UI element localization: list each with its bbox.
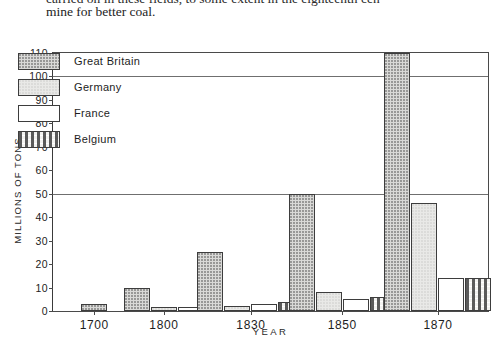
- legend-swatch-great-britain: [18, 53, 60, 70]
- bar-great-britain-1850: [289, 194, 315, 311]
- legend-swatch-germany: [18, 79, 60, 96]
- y-axis-tick-mark: [49, 288, 53, 289]
- bar-germany-1850: [316, 292, 342, 311]
- bar-great-britain-1830: [197, 252, 223, 311]
- y-axis-tick-mark: [49, 311, 53, 312]
- y-axis-tick-mark: [49, 241, 53, 242]
- x-axis-tick-mark: [342, 311, 343, 315]
- x-axis-tick-mark: [438, 311, 439, 315]
- bar-belgium-1870: [465, 278, 491, 311]
- y-axis-tick-mark: [49, 264, 53, 265]
- y-axis-tick-mark: [49, 170, 53, 171]
- caption-line: mine for better coal.: [46, 4, 155, 20]
- gridline-50: [53, 194, 488, 195]
- bar-great-britain-1870: [384, 53, 410, 311]
- page-caption-text: carried on in these fields, to some exte…: [0, 0, 498, 30]
- x-axis-tick-mark: [251, 311, 252, 315]
- x-axis-tick-mark: [164, 311, 165, 315]
- legend-label: Belgium: [74, 133, 116, 145]
- bar-france-1870: [438, 278, 464, 311]
- bar-great-britain-1700: [81, 304, 107, 311]
- bar-great-britain-1800: [124, 288, 150, 311]
- legend-item-great-britain: Great Britain: [18, 50, 140, 72]
- legend-label: Germany: [74, 81, 122, 93]
- legend-label: France: [74, 107, 110, 119]
- legend-swatch-belgium: [18, 131, 60, 148]
- coal-production-bar-chart: MILLIONS OF TONS 01020304050607080901001…: [0, 30, 498, 342]
- bar-france-1830: [251, 304, 277, 311]
- legend-item-belgium: Belgium: [18, 128, 140, 150]
- chart-legend: Great BritainGermanyFranceBelgium: [18, 50, 140, 154]
- legend-item-germany: Germany: [18, 76, 140, 98]
- bar-germany-1870: [411, 203, 437, 311]
- bar-france-1850: [343, 299, 369, 311]
- x-axis-title: YEAR: [52, 326, 489, 337]
- bar-germany-1830: [224, 306, 250, 311]
- x-axis-tick-mark: [94, 311, 95, 315]
- legend-item-france: France: [18, 102, 140, 124]
- y-axis-tick-mark: [49, 217, 53, 218]
- legend-swatch-france: [18, 105, 60, 122]
- legend-label: Great Britain: [74, 55, 140, 67]
